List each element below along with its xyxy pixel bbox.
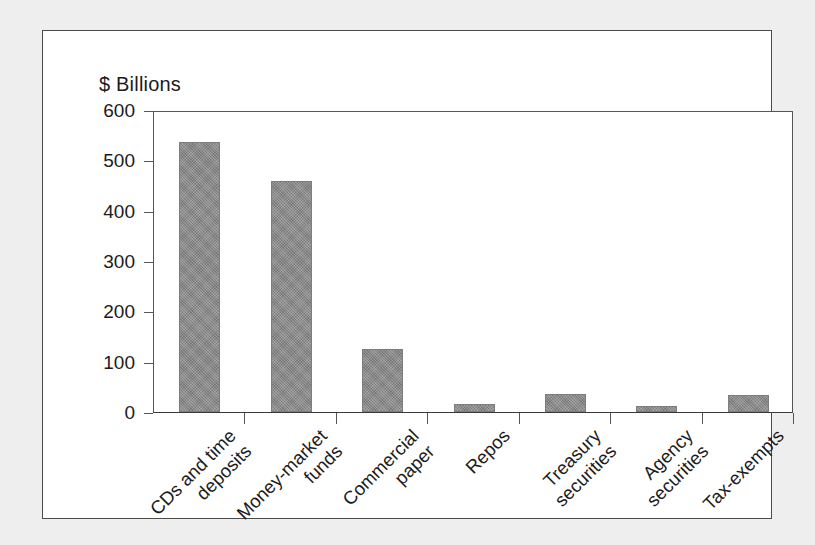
bar xyxy=(728,395,769,412)
x-axis-tick xyxy=(702,413,703,424)
chart-frame: $ Billions 0100200300400500600 CDs and t… xyxy=(42,30,772,519)
x-axis-tick-label-line1: Tax-exempts xyxy=(699,425,788,514)
y-axis-tick-label: 400 xyxy=(77,201,135,223)
bar xyxy=(636,406,677,412)
y-axis-tick xyxy=(144,312,153,313)
bar xyxy=(362,349,403,412)
plot-area xyxy=(153,111,793,413)
x-axis-tick xyxy=(244,413,245,424)
y-axis-tick-label: 300 xyxy=(77,251,135,273)
x-axis-tick xyxy=(336,413,337,424)
x-axis-tick-label-line1: Repos xyxy=(461,425,514,478)
x-axis-tick xyxy=(427,413,428,424)
y-axis-tick-label: 200 xyxy=(77,301,135,323)
y-axis-tick xyxy=(144,111,153,112)
figure-page: $ Billions 0100200300400500600 CDs and t… xyxy=(0,0,815,545)
y-axis-tick xyxy=(144,363,153,364)
bar xyxy=(545,394,586,412)
y-axis-tick-label: 500 xyxy=(77,150,135,172)
y-axis-tick xyxy=(144,212,153,213)
x-axis-label-group: CDs and timedepositsMoney-marketfundsCom… xyxy=(153,425,793,545)
y-axis-tick-label: 0 xyxy=(77,402,135,424)
x-axis-tick xyxy=(793,413,794,424)
x-axis-tick xyxy=(610,413,611,424)
x-axis-tick xyxy=(519,413,520,424)
bar xyxy=(271,181,312,412)
y-axis-tick-label: 100 xyxy=(77,352,135,374)
y-axis-tick-label: 600 xyxy=(77,100,135,122)
y-axis-tick xyxy=(144,262,153,263)
bar xyxy=(454,404,495,412)
y-axis-tick xyxy=(144,413,153,414)
y-axis-tick xyxy=(144,161,153,162)
y-axis-label-group: 0100200300400500600 xyxy=(77,31,135,518)
bar xyxy=(179,142,220,412)
